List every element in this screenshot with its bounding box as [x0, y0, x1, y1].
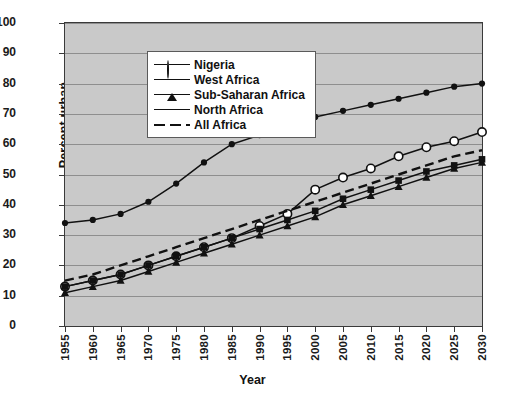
x-axis-tick-mark [121, 327, 122, 332]
legend-symbol-triangle [154, 73, 190, 87]
data-point [173, 180, 179, 186]
x-axis-tick-mark [204, 327, 205, 332]
data-point [479, 156, 486, 163]
data-point [173, 253, 180, 260]
x-axis-tick-label: 1960 [87, 334, 99, 361]
legend-item-sub-saharan-africa: Sub-Saharan Africa [154, 87, 305, 102]
x-axis-tick-label: 2000 [309, 334, 321, 361]
x-axis-tick-label: 1995 [281, 334, 293, 361]
y-axis-tick-label: 10 [0, 288, 16, 302]
legend-symbol-square [154, 88, 190, 102]
data-point [368, 102, 374, 108]
data-point [340, 108, 346, 114]
chart-figure: Percent urban 0102030405060708090100 Nig… [0, 0, 505, 400]
data-point [229, 235, 236, 242]
data-point [284, 217, 291, 224]
data-point [90, 217, 96, 223]
legend-symbol-open-circle [154, 58, 190, 72]
data-point [396, 96, 402, 102]
data-point [340, 195, 347, 202]
data-point [451, 162, 458, 169]
legend-label: West Africa [190, 73, 259, 87]
x-axis-tick-mark [176, 327, 177, 332]
series-line [65, 162, 482, 292]
x-axis-tick-label: 1980 [198, 334, 210, 361]
legend-label: Nigeria [190, 58, 235, 72]
y-axis-tick-label: 60 [0, 136, 16, 150]
y-axis-tick-label: 90 [0, 45, 16, 59]
data-point [256, 226, 263, 233]
legend-symbol-filled-circle [154, 103, 190, 117]
x-axis-tick-mark [287, 327, 288, 332]
data-point [394, 152, 402, 160]
x-axis-tick-mark [315, 327, 316, 332]
legend-item-nigeria: Nigeria [154, 57, 305, 72]
x-axis-tick-mark [399, 327, 400, 332]
y-axis-tick-label: 100 [0, 15, 16, 29]
data-point [451, 84, 457, 90]
data-point [423, 168, 430, 175]
x-axis-tick-mark [371, 327, 372, 332]
x-axis-tick-label: 2030 [476, 334, 488, 361]
x-axis-tick-mark [482, 327, 483, 332]
legend-item-north-africa: North Africa [154, 102, 305, 117]
x-axis-tick-label: 2015 [393, 334, 405, 361]
legend-item-west-africa: West Africa [154, 72, 305, 87]
series-line [65, 159, 482, 286]
x-axis-title: Year [0, 373, 505, 387]
series-line [65, 150, 482, 280]
data-point [311, 185, 319, 193]
legend-item-all-africa: All Africa [154, 117, 305, 132]
legend-label: Sub-Saharan Africa [190, 88, 305, 102]
y-axis-tick-label: 30 [0, 227, 16, 241]
data-point [339, 173, 347, 181]
y-axis-tick-label: 70 [0, 106, 16, 120]
x-axis-tick-mark [260, 327, 261, 332]
x-axis-tick-label: 1955 [59, 334, 71, 361]
data-point [312, 208, 319, 215]
x-axis-tick-mark [232, 327, 233, 332]
data-point [117, 271, 124, 278]
x-axis-tick-label: 1985 [226, 334, 238, 361]
y-axis-tick-label: 50 [0, 167, 16, 181]
data-point [145, 199, 151, 205]
data-point [367, 164, 375, 172]
x-axis-tick-mark [343, 327, 344, 332]
data-point [118, 211, 124, 217]
legend-symbol-dashed-line [154, 118, 190, 132]
data-point [201, 244, 208, 251]
y-axis-tick-label: 40 [0, 197, 16, 211]
x-axis-tick-label: 2020 [420, 334, 432, 361]
data-point [90, 277, 97, 284]
data-point [479, 81, 485, 87]
x-axis-tick-label: 1965 [115, 334, 127, 361]
data-point [395, 177, 402, 184]
data-point [62, 220, 68, 226]
x-axis-tick-label: 2025 [448, 334, 460, 361]
y-axis-tick-label: 0 [0, 318, 16, 332]
data-point [201, 159, 207, 165]
data-point [62, 283, 69, 290]
x-axis-tick-mark [454, 327, 455, 332]
data-point [423, 90, 429, 96]
x-axis-tick-mark [148, 327, 149, 332]
data-point [478, 128, 486, 136]
x-axis-tick-label: 2005 [337, 334, 349, 361]
legend-label: North Africa [190, 103, 263, 117]
x-axis-tick-mark [426, 327, 427, 332]
plot-area: Nigeria West Africa Sub-Saharan Africa N… [64, 22, 483, 327]
data-point [450, 137, 458, 145]
y-axis-tick-label: 20 [0, 257, 16, 271]
x-axis-tick-label: 2010 [365, 334, 377, 361]
x-axis-tick-label: 1990 [254, 334, 266, 361]
y-axis-tick-label: 80 [0, 76, 16, 90]
series-all-africa [65, 150, 482, 280]
data-point [145, 262, 152, 269]
series-sub-saharan-africa [62, 156, 486, 290]
x-axis-tick-label: 1970 [142, 334, 154, 361]
data-point [229, 141, 235, 147]
x-axis-tick-mark [65, 327, 66, 332]
x-axis-tick-mark [93, 327, 94, 332]
series-nigeria [61, 128, 486, 291]
data-point [422, 143, 430, 151]
